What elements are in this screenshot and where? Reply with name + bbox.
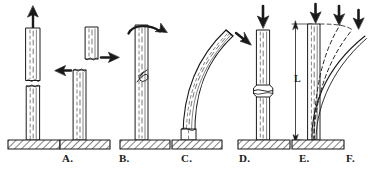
base-plate-b bbox=[60, 140, 110, 149]
base-plate-f bbox=[292, 140, 344, 149]
panel-caption-b: B. bbox=[119, 152, 130, 164]
panel-f-buckling bbox=[292, 4, 367, 149]
down-arrow-icon-f-3 bbox=[353, 10, 364, 29]
panel-e-compression bbox=[238, 6, 290, 149]
column-upper-segment-a bbox=[26, 28, 40, 81]
failure-modes-figure: L A. B. C. D. E. F. bbox=[0, 0, 368, 170]
dimension-label-L: L bbox=[294, 73, 301, 84]
panel-caption-c: C. bbox=[181, 152, 192, 164]
diagonal-arrow-icon bbox=[236, 33, 251, 45]
panel-caption-f: F. bbox=[346, 152, 355, 164]
base-plate-e bbox=[238, 140, 290, 149]
column-c bbox=[136, 25, 149, 140]
base-plate-c bbox=[120, 140, 170, 149]
column-e-upper bbox=[257, 30, 270, 85]
base-plate-a bbox=[8, 140, 60, 149]
panel-caption-a: A. bbox=[62, 152, 73, 164]
column-e-lower bbox=[257, 97, 270, 140]
column-d-bent bbox=[182, 30, 234, 140]
panel-caption-d: D. bbox=[239, 152, 250, 164]
down-arrow-icon-e bbox=[257, 6, 268, 28]
right-arrow-icon bbox=[101, 53, 119, 63]
figure-drawing bbox=[0, 0, 368, 170]
panel-a-tension bbox=[8, 6, 60, 149]
column-lower-segment-a bbox=[27, 85, 40, 140]
down-arrow-icon-f-2 bbox=[334, 6, 345, 25]
base-plate-d bbox=[172, 140, 222, 149]
panel-caption-e: E. bbox=[299, 152, 310, 164]
panel-c-torsion bbox=[120, 24, 170, 149]
crush-band-e bbox=[254, 85, 273, 97]
left-arrow-icon bbox=[55, 66, 71, 76]
panel-d-bending bbox=[172, 30, 251, 149]
column-upper-segment-b bbox=[86, 27, 99, 60]
panel-b-shear bbox=[55, 27, 119, 149]
column-lower-segment-b bbox=[74, 69, 87, 140]
down-arrow-icon-f-1 bbox=[310, 4, 321, 23]
